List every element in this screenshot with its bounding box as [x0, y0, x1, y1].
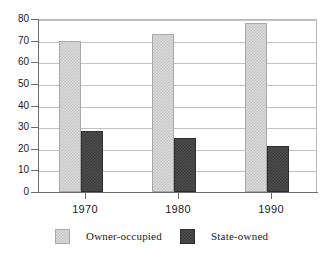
y-axis-tick — [31, 127, 38, 128]
y-axis-tick — [31, 106, 38, 107]
y-axis-tick — [31, 62, 38, 63]
y-axis-tick-label: 40 — [18, 101, 29, 111]
bar-chart: 80706050403020100 197019801990 Owner-occ… — [0, 0, 333, 259]
bar-1970-state-owned[interactable] — [81, 131, 103, 192]
y-axis-tick-label: 80 — [18, 14, 29, 24]
bar-1990-state-owned[interactable] — [267, 146, 289, 192]
x-axis-tick-label: 1970 — [55, 203, 115, 215]
y-axis-tick — [31, 19, 38, 20]
legend-item-owner-occupied[interactable]: Owner-occupied — [55, 229, 162, 244]
chart-legend: Owner-occupied State-owned — [0, 228, 333, 250]
y-axis-tick-label: 20 — [18, 144, 29, 154]
x-axis-tick — [271, 193, 272, 199]
legend-item-state-owned[interactable]: State-owned — [180, 229, 268, 244]
x-axis-tick — [178, 193, 179, 199]
bar-1980-owner-occupied[interactable] — [152, 34, 174, 192]
legend-swatch-owner-occupied — [55, 229, 70, 244]
bar-1990-owner-occupied[interactable] — [245, 23, 267, 192]
y-axis-tick — [31, 149, 38, 150]
x-axis-tick-label: 1990 — [241, 203, 301, 215]
x-axis-tick-label: 1980 — [148, 203, 208, 215]
y-axis-tick-label: 70 — [18, 36, 29, 46]
y-axis-tick — [31, 41, 38, 42]
legend-label-owner-occupied: Owner-occupied — [86, 230, 162, 243]
x-axis-tick — [85, 193, 86, 199]
y-axis-tick-label: 0 — [23, 187, 29, 197]
y-axis-tick-label: 60 — [18, 57, 29, 67]
bar-1970-owner-occupied[interactable] — [59, 41, 81, 192]
y-axis-tick — [31, 84, 38, 85]
y-axis-tick-label: 10 — [18, 165, 29, 175]
gridline — [39, 20, 316, 21]
legend-swatch-state-owned — [180, 229, 195, 244]
legend-label-state-owned: State-owned — [211, 230, 268, 243]
y-axis-tick-label: 50 — [18, 79, 29, 89]
bar-1980-state-owned[interactable] — [174, 138, 196, 192]
y-axis-tick — [31, 192, 38, 193]
y-axis-tick — [31, 170, 38, 171]
y-axis-tick-label: 30 — [18, 122, 29, 132]
